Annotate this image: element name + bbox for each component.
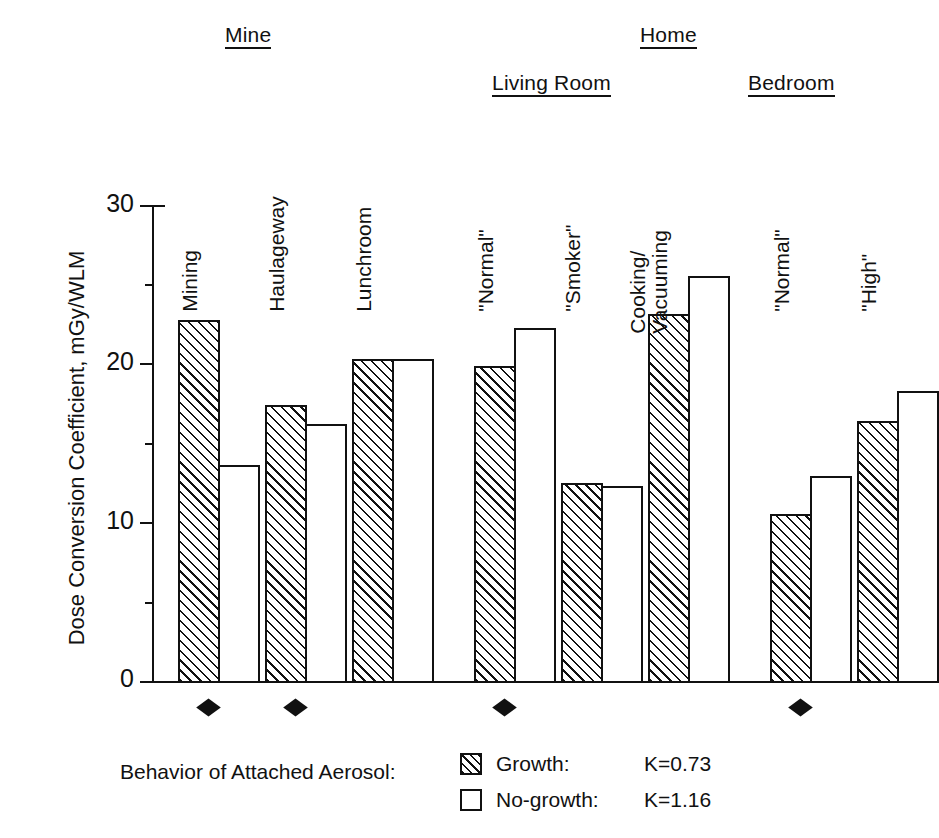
legend-value-nogrowth: K=1.16 — [644, 788, 711, 812]
diamond-marker-haulageway — [283, 699, 308, 717]
diamond-marker-mining — [196, 699, 221, 717]
bar-lr-normal-nogrowth — [514, 328, 556, 683]
bar-cooking-growth — [648, 314, 690, 683]
bar-label-bedroom-high: "High" — [858, 254, 880, 312]
bar-mining-growth — [178, 320, 220, 683]
bar-label-lr-normal: "Normal" — [475, 229, 497, 312]
y-tick-label-30: 30 — [76, 191, 134, 216]
bar-label-cooking-line2: Vacuuming — [648, 230, 671, 334]
y-axis-title: Dose Conversion Coefficient, mGy/WLM — [64, 238, 90, 658]
bar-haulageway-nogrowth — [305, 424, 347, 683]
bar-label-bedroom-normal: "Normal" — [771, 229, 793, 312]
y-tick-label-0: 0 — [76, 666, 134, 691]
bar-cooking-nogrowth — [688, 276, 730, 683]
legend-value-growth: K=0.73 — [644, 752, 711, 776]
bar-lr-smoker-nogrowth — [601, 486, 643, 683]
bar-label-lunchroom: Lunchroom — [353, 207, 375, 312]
bar-lr-normal-growth — [474, 366, 516, 683]
bar-label-mining: Mining — [179, 250, 201, 312]
diamond-marker-bedroom-normal — [788, 699, 813, 717]
bar-bedroom-high-nogrowth — [897, 391, 939, 683]
group-heading-mine: Mine — [225, 24, 271, 49]
group-heading-home: Home — [640, 24, 697, 49]
legend-label-nogrowth: No-growth: — [496, 788, 644, 812]
bar-bedroom-normal-growth — [770, 514, 812, 683]
bar-label-lr-smoker: "Smoker" — [562, 225, 584, 312]
bar-bedroom-normal-nogrowth — [810, 476, 852, 683]
legend-row-nogrowth: No-growth: K=1.16 — [460, 788, 711, 812]
bar-mining-nogrowth — [218, 465, 260, 683]
bar-label-cooking: Cooking/ Vacuuming — [627, 230, 671, 334]
bar-lunchroom-growth — [352, 359, 394, 683]
legend-label-growth: Growth: — [496, 752, 644, 776]
legend-row-growth: Growth: K=0.73 — [460, 752, 711, 776]
group-heading-bedroom: Bedroom — [748, 72, 835, 97]
legend-swatch-growth-icon — [460, 753, 482, 775]
diamond-marker-lr-normal — [492, 699, 517, 717]
legend-title: Behavior of Attached Aerosol: — [120, 760, 396, 784]
bar-label-haulageway: Haulageway — [266, 196, 288, 312]
legend-swatch-nogrowth-icon — [460, 789, 482, 811]
bar-bedroom-high-growth — [857, 421, 899, 683]
bar-lunchroom-nogrowth — [392, 359, 434, 683]
group-heading-living-room: Living Room — [492, 72, 611, 97]
bar-haulageway-growth — [265, 405, 307, 683]
bar-label-cooking-line1: Cooking/ — [626, 251, 649, 334]
bar-lr-smoker-growth — [561, 483, 603, 683]
